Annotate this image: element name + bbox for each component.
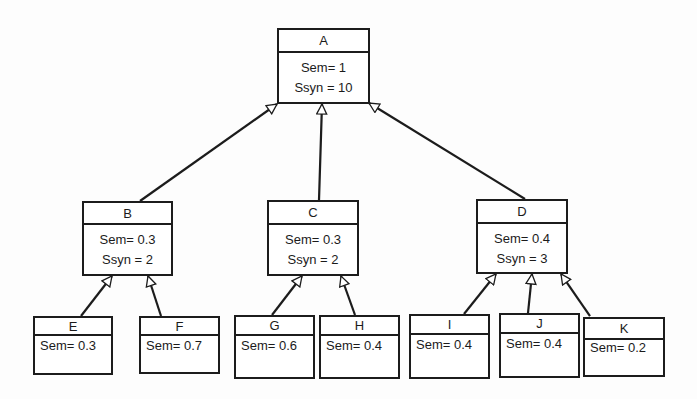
node-d: D Sem= 0.4 Ssyn = 3 <box>476 199 568 274</box>
node-c-sem: Sem= 0.3 <box>285 233 341 246</box>
node-d-title: D <box>478 201 566 224</box>
node-a-title: A <box>279 30 368 53</box>
edge-j-d <box>528 274 532 313</box>
edge-f-b <box>148 276 161 316</box>
node-b-body: Sem= 0.3 Ssyn = 2 <box>84 225 171 274</box>
node-a-body: Sem= 1 Ssyn = 10 <box>279 53 368 102</box>
node-g-title: G <box>236 317 313 336</box>
node-i-title: I <box>411 316 488 335</box>
node-i-sem: Sem= 0.4 <box>411 335 488 377</box>
node-g: G Sem= 0.6 <box>234 315 315 379</box>
edge-i-d <box>464 274 496 314</box>
node-k-sem: Sem= 0.2 <box>585 340 663 375</box>
node-g-sem: Sem= 0.6 <box>236 336 313 377</box>
node-f-sem: Sem= 0.7 <box>141 336 218 372</box>
node-c-body: Sem= 0.3 Ssyn = 2 <box>269 225 357 274</box>
node-d-sem: Sem= 0.4 <box>494 232 550 245</box>
node-e-sem: Sem= 0.3 <box>35 336 111 373</box>
node-d-ssyn: Ssyn = 3 <box>497 252 548 265</box>
node-h-title: H <box>321 317 398 336</box>
node-h: H Sem= 0.4 <box>319 315 400 379</box>
node-b-title: B <box>84 203 171 225</box>
node-k: K Sem= 0.2 <box>583 317 665 377</box>
node-a-ssyn: Ssyn = 10 <box>294 81 352 94</box>
edge-b-a <box>140 104 277 201</box>
node-f-title: F <box>141 318 218 336</box>
edge-e-b <box>81 276 112 316</box>
edge-c-a <box>319 104 322 200</box>
tree-diagram: A Sem= 1 Ssyn = 10 B Sem= 0.3 Ssyn = 2 C… <box>0 0 697 399</box>
node-e-title: E <box>35 318 111 336</box>
node-j-title: J <box>501 315 578 334</box>
node-b-ssyn: Ssyn = 2 <box>102 253 153 266</box>
edge-g-c <box>272 276 302 315</box>
node-k-title: K <box>585 319 663 340</box>
edge-h-c <box>341 276 355 315</box>
node-a: A Sem= 1 Ssyn = 10 <box>277 28 370 104</box>
node-c: C Sem= 0.3 Ssyn = 2 <box>267 200 359 276</box>
edge-d-a <box>369 103 525 199</box>
node-f: F Sem= 0.7 <box>139 316 220 374</box>
node-b: B Sem= 0.3 Ssyn = 2 <box>82 201 173 276</box>
node-a-sem: Sem= 1 <box>301 61 346 74</box>
node-h-sem: Sem= 0.4 <box>321 336 398 377</box>
node-c-title: C <box>269 202 357 225</box>
node-e: E Sem= 0.3 <box>33 316 113 375</box>
node-c-ssyn: Ssyn = 2 <box>288 253 339 266</box>
node-i: I Sem= 0.4 <box>409 314 490 379</box>
node-j: J Sem= 0.4 <box>499 313 580 378</box>
edge-k-d <box>561 274 590 316</box>
node-j-sem: Sem= 0.4 <box>501 334 578 376</box>
node-b-sem: Sem= 0.3 <box>99 233 155 246</box>
node-d-body: Sem= 0.4 Ssyn = 3 <box>478 224 566 272</box>
